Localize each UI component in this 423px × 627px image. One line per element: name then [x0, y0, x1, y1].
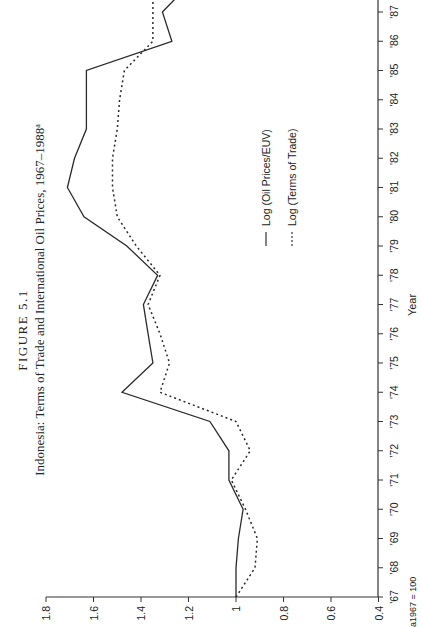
value-tick-label: 0.4: [373, 606, 385, 621]
legend-label-terms-of-trade: Log (Terms of Trade): [286, 129, 298, 226]
legend: Log (Oil Prices/EUV) Log (Terms of Trade…: [260, 129, 298, 246]
axes: 1.81.61.41.210.80.60.4 '67'68'69'70'71'7…: [40, 0, 400, 621]
figure-label: FIGURE 5.1: [15, 289, 30, 370]
year-tick-label: '85: [388, 63, 400, 77]
year-tick-label: '69: [388, 531, 400, 545]
series-terms-of-trade-line: [113, 0, 258, 597]
year-tick-label: '82: [388, 151, 400, 165]
footnote: a1967 = 100: [408, 577, 418, 627]
year-tick-label: '72: [388, 444, 400, 458]
series-oil-prices-line: [67, 0, 243, 597]
figure-title-text: Indonesia: Terms of Trade and Internatio…: [32, 128, 47, 476]
year-tick-label: '84: [388, 93, 400, 107]
title-footnote-mark: a: [33, 124, 42, 128]
value-tick-label: 1.8: [40, 606, 52, 621]
year-tick-label: '77: [388, 297, 400, 311]
year-tick-label: '83: [388, 122, 400, 136]
year-axis-ticks: '67'68'69'70'71'72'73'74'75'76'77'78'79'…: [378, 5, 400, 604]
year-tick-label: '87: [388, 5, 400, 19]
value-axis-ticks: 1.81.61.41.210.80.60.4: [40, 597, 385, 621]
year-tick-label: '70: [388, 502, 400, 516]
value-tick-label: 0.6: [325, 606, 337, 621]
year-tick-label: '81: [388, 180, 400, 194]
year-tick-label: '79: [388, 239, 400, 253]
year-tick-label: '75: [388, 356, 400, 370]
value-tick-label: 1.4: [135, 606, 147, 621]
year-tick-label: '71: [388, 473, 400, 487]
series-group: [67, 0, 257, 597]
year-tick-label: '73: [388, 414, 400, 428]
legend-label-oil-prices: Log (Oil Prices/EUV): [260, 129, 272, 226]
year-axis-label: Year: [406, 294, 418, 317]
year-tick-label: '74: [388, 385, 400, 399]
value-tick-label: 0.8: [278, 606, 290, 621]
year-tick-label: '78: [388, 268, 400, 282]
year-tick-label: '76: [388, 327, 400, 341]
value-tick-label: 1: [230, 606, 242, 612]
value-tick-label: 1.6: [88, 606, 100, 621]
year-tick-label: '68: [388, 561, 400, 575]
year-tick-label: '67: [388, 590, 400, 604]
value-tick-label: 1.2: [183, 606, 195, 621]
figure-chart: FIGURE 5.1 Indonesia: Terms of Trade and…: [0, 0, 423, 627]
year-tick-label: '80: [388, 210, 400, 224]
year-tick-label: '86: [388, 34, 400, 48]
figure-title: Indonesia: Terms of Trade and Internatio…: [32, 124, 47, 476]
